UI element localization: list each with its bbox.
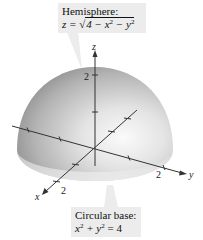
circular-base-title: Circular base: bbox=[75, 209, 137, 222]
circular-base-equation: x2 + y2 = 4 bbox=[75, 222, 137, 235]
hemisphere-diagram: z y x 2 2 2 bbox=[0, 0, 203, 240]
hemisphere-equation: z = √4 − x2 − y2 bbox=[62, 18, 142, 31]
bottom-callout-pointer bbox=[104, 185, 118, 207]
y-axis-label: y bbox=[188, 169, 194, 180]
x-tick bbox=[53, 181, 60, 182]
top-callout-pointer bbox=[66, 30, 82, 70]
y-tick-label: 2 bbox=[156, 169, 161, 180]
y-axis-arrow-icon bbox=[179, 171, 187, 176]
x-tick-label: 2 bbox=[61, 185, 66, 196]
hemisphere-callout: Hemisphere: z = √4 − x2 − y2 bbox=[58, 3, 146, 33]
z-tick-label: 2 bbox=[84, 71, 89, 82]
x-axis-label: x bbox=[34, 191, 40, 202]
z-axis-label: z bbox=[91, 41, 96, 52]
circular-base-callout: Circular base: x2 + y2 = 4 bbox=[71, 207, 141, 237]
